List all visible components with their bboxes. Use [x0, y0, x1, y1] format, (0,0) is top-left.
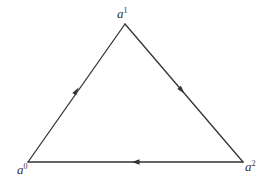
vertex-label-a0: a0: [17, 163, 28, 176]
triangle-svg: [0, 0, 274, 186]
vertex-label-a1: a1: [117, 7, 128, 20]
vertex-label-a2: a2: [245, 160, 256, 173]
arrow-left-icon: [132, 159, 140, 164]
triangle-diagram: a1 a0 a2: [0, 0, 274, 186]
